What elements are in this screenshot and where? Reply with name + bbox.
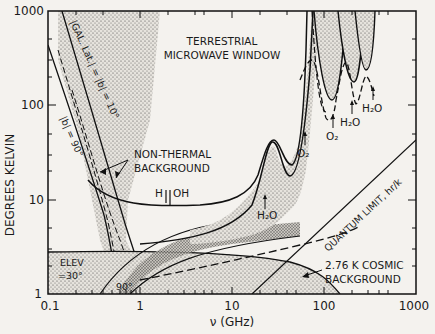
label-quantum-limit: QUANTUM LIMIT, hr/k [322, 176, 404, 254]
label-o2-60: O₂ [297, 147, 309, 159]
label-elev-90: 90° [116, 281, 133, 292]
label-nonthermal-2: BACKGROUND [134, 162, 210, 174]
y-tick-10: 10 [29, 193, 44, 207]
label-window-1: TERRESTRIAL [186, 35, 258, 47]
y-tick-1: 1 [34, 287, 42, 301]
label-cmb-1: 2.76 K COSMIC [325, 259, 404, 271]
label-h2o-22: H₂O [257, 209, 277, 221]
y-axis-label: DEGREES KELVIN [3, 134, 17, 237]
x-tick-0.1: 0.1 [40, 299, 59, 313]
label-elev-1: ELEV [60, 257, 84, 268]
x-tick-10: 10 [224, 299, 239, 313]
x-tick-1000: 1000 [399, 299, 430, 313]
x-tick-1: 1 [136, 299, 144, 313]
y-tick-100: 100 [21, 98, 44, 112]
label-cmb-2: BACKGROUND [325, 273, 401, 285]
label-window-2: MICROWAVE WINDOW [164, 49, 281, 61]
label-elev-2: =30° [58, 270, 83, 281]
label-h2o-325: H₂O [362, 102, 382, 114]
chart: 0.1 1 10 100 1000 1 10 100 1000 ν (GHz) … [0, 0, 435, 334]
cmb-dome [48, 251, 340, 294]
label-h: H [155, 187, 163, 199]
x-tick-100: 100 [313, 299, 336, 313]
label-h2o-183: H₂O [340, 116, 360, 128]
x-axis-label: ν (GHz) [210, 315, 255, 329]
label-nonthermal-1: NON-THERMAL [134, 148, 211, 160]
y-tick-1000: 1000 [13, 4, 44, 18]
label-oh: OH [173, 187, 189, 199]
label-o2-118: O₂ [326, 130, 338, 142]
